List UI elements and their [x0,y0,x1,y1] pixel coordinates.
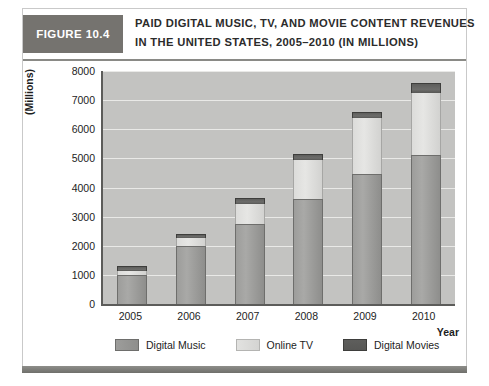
x-axis-tick-2006: 2006 [160,310,219,322]
figure-number-block: FIGURE 10.4 [23,15,123,53]
segment-online-tv-2009 [352,118,382,175]
legend-item[interactable]: Online TV [236,339,314,351]
segment-online-tv-2007 [235,204,265,224]
figure-card: FIGURE 10.4 PAID DIGITAL MUSIC, TV, AND … [22,8,467,371]
segment-digital-music-2007 [235,224,265,304]
legend-item[interactable]: Digital Music [115,339,206,351]
segment-digital-music-2006 [176,246,206,304]
legend-label: Online TV [267,339,314,351]
y-axis-tick-0: 0 [89,298,95,310]
segment-digital-movies-2010 [411,83,441,93]
y-axis-title: (Millions) [23,69,35,115]
stacked-bar-2007[interactable] [235,198,265,304]
bar-slot-2007 [220,71,279,304]
bar-slot-2005 [103,71,162,304]
stacked-bar-2005[interactable] [117,266,147,304]
bar-slot-2008 [279,71,338,304]
stacked-bar-2009[interactable] [352,112,382,304]
legend-label: Digital Movies [374,339,439,351]
segment-online-tv-2008 [293,160,323,199]
x-axis-tick-2007: 2007 [218,310,277,322]
figure-number-label: FIGURE 10.4 [36,28,109,40]
figure-header: FIGURE 10.4 PAID DIGITAL MUSIC, TV, AND … [23,15,466,64]
segment-online-tv-2010 [411,93,441,156]
y-axis-tick-5000: 5000 [72,152,95,164]
bar-group [103,71,455,304]
x-axis-tick-2005: 2005 [101,310,160,322]
y-axis-tick-7000: 7000 [72,94,95,106]
x-axis-tick-2008: 2008 [277,310,336,322]
segment-digital-music-2005 [117,275,147,304]
x-axis-tick-labels: 200520062007200820092010 [101,310,453,322]
segment-online-tv-2006 [176,238,206,245]
plot-canvas [101,71,455,306]
header-divider [23,59,466,61]
chart-legend: Digital MusicOnline TVDigital Movies [115,339,445,351]
digital-music-swatch [115,339,139,351]
x-axis-tick-2010: 2010 [394,310,453,322]
stacked-bar-2006[interactable] [176,234,206,304]
figure-title-line-2: IN THE UNITED STATES, 2005–2010 (IN MILL… [135,33,460,52]
x-axis-tick-2009: 2009 [336,310,395,322]
digital-movies-swatch [343,339,367,351]
chart-plot-region: (Millions) 80007000600050004000300020001… [29,67,461,335]
y-axis-tick-6000: 6000 [72,123,95,135]
segment-digital-music-2009 [352,174,382,304]
segment-digital-music-2008 [293,199,323,304]
stacked-bar-2008[interactable] [293,154,323,304]
figure-title-block: PAID DIGITAL MUSIC, TV, AND MOVIE CONTEN… [135,14,460,52]
x-axis-title: Year [437,326,459,338]
bar-slot-2009 [338,71,397,304]
bar-slot-2010 [396,71,455,304]
online-tv-swatch [236,339,260,351]
figure-title-line-1: PAID DIGITAL MUSIC, TV, AND MOVIE CONTEN… [135,14,460,33]
y-axis-tick-labels: 800070006000500040003000200010000 [47,67,99,307]
bar-slot-2006 [162,71,221,304]
y-axis-tick-4000: 4000 [72,182,95,194]
y-axis-tick-8000: 8000 [72,65,95,77]
y-axis-tick-2000: 2000 [72,240,95,252]
stacked-bar-2010[interactable] [411,83,441,304]
y-axis-tick-3000: 3000 [72,211,95,223]
y-axis-tick-1000: 1000 [72,269,95,281]
legend-label: Digital Music [146,339,206,351]
footer-rule [22,366,467,373]
segment-digital-music-2010 [411,155,441,304]
legend-item[interactable]: Digital Movies [343,339,439,351]
